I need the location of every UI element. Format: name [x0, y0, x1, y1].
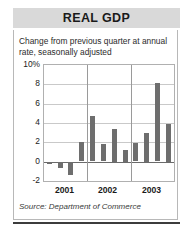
- y-axis-tick-label: 2: [14, 137, 40, 145]
- y-axis-tick-label: 6: [14, 99, 40, 107]
- bar: [144, 133, 149, 162]
- y-axis-tick-label: 8: [14, 79, 40, 87]
- bar: [166, 124, 171, 162]
- bar: [123, 150, 128, 162]
- bar: [133, 143, 138, 161]
- chart-subtitle: Change from previous quarter at annual r…: [19, 36, 175, 57]
- bar: [112, 129, 117, 162]
- y-axis-tick-label: 10%: [14, 60, 40, 68]
- year-divider: [131, 65, 132, 181]
- y-axis-tick-label: 0: [14, 157, 40, 165]
- y-axis-tick-label: 4: [14, 118, 40, 126]
- bar: [90, 116, 95, 161]
- title-banner: REAL GDP: [13, 8, 180, 28]
- plot-area: [43, 64, 175, 182]
- x-axis-group-label: 2003: [130, 185, 173, 195]
- source-note: Source: Department of Commerce: [19, 202, 179, 212]
- zero-line: [44, 162, 174, 163]
- bar: [79, 142, 84, 161]
- bar: [47, 162, 52, 164]
- y-axis-tick-label: -2: [14, 176, 40, 184]
- x-axis: 200120022003: [43, 185, 175, 197]
- real-gdp-chart-figure: REAL GDP Change from previous quarter at…: [0, 0, 190, 238]
- bar: [58, 162, 63, 168]
- y-axis: -20246810%: [13, 64, 40, 182]
- x-axis-group-label: 2002: [86, 185, 129, 195]
- x-axis-group-label: 2001: [43, 185, 86, 195]
- bar: [101, 144, 106, 161]
- bar: [68, 162, 73, 175]
- year-divider: [87, 65, 88, 181]
- page-title: REAL GDP: [13, 8, 180, 28]
- bottom-rule: [13, 222, 180, 224]
- bar: [155, 83, 160, 161]
